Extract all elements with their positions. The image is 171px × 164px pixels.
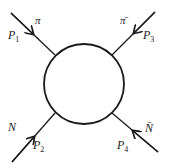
leg-top-left: π P1 [7, 13, 55, 55]
leg-bottom-left: N P2 [7, 113, 55, 162]
particle-label-n: N [7, 120, 17, 134]
leg-bottom-right: N̄ P4 [112, 113, 158, 154]
scattering-diagram: π P1 π̄ P3 N P2 N̄ P4 [0, 0, 171, 164]
particle-label-n-bar: N̄ [144, 121, 154, 135]
amplitude-blob [44, 44, 124, 124]
momentum-label-p4: P4 [116, 138, 128, 154]
particle-label-pi: π [35, 14, 41, 26]
momentum-label-p2: P2 [32, 138, 44, 154]
momentum-label-p1: P1 [7, 28, 19, 44]
leg-top-right: π̄ P3 [112, 12, 155, 55]
momentum-label-p3: P3 [142, 28, 154, 44]
particle-label-pi-bar: π̄ [120, 14, 129, 26]
